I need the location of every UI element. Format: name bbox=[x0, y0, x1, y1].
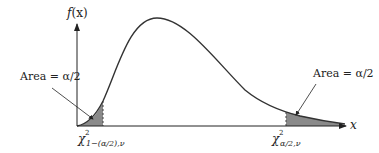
left-area-pointer bbox=[52, 88, 93, 119]
svg-text:2: 2 bbox=[85, 129, 89, 137]
svg-text:1−(α/2),ν: 1−(α/2),ν bbox=[86, 139, 125, 148]
left-critical-value-label: χ 2 1−(α/2),ν bbox=[77, 129, 125, 148]
left-shaded-area bbox=[77, 101, 103, 126]
right-area-label: Area = α/2 bbox=[312, 67, 374, 80]
svg-text:2: 2 bbox=[279, 129, 283, 137]
chi-square-diagram: f(x) x Area = α/2 Area = α/2 χ 2 1−(α/2)… bbox=[0, 0, 379, 153]
x-axis-label: x bbox=[350, 118, 357, 132]
right-critical-value-label: χ 2 α/2,ν bbox=[271, 129, 301, 148]
svg-text:α/2,ν: α/2,ν bbox=[280, 139, 301, 148]
right-area-pointer bbox=[296, 84, 316, 115]
y-axis-label: f(x) bbox=[66, 6, 88, 20]
density-curve bbox=[77, 18, 345, 126]
left-area-label: Area = α/2 bbox=[19, 70, 81, 83]
